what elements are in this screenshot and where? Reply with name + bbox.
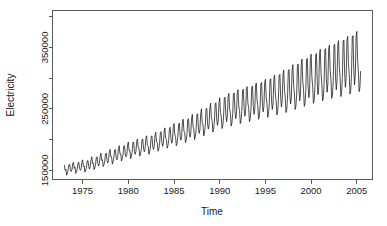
y-tick-label: 150000 xyxy=(39,154,50,186)
y-tick-label: 350000 xyxy=(39,32,50,64)
x-axis-tick-labels: 1975198019851990199520002005 xyxy=(72,185,367,196)
x-axis-title: Time xyxy=(201,206,223,217)
y-tick-label: 250000 xyxy=(39,93,50,125)
x-tick-label: 1990 xyxy=(209,185,230,196)
x-tick-label: 1975 xyxy=(72,185,93,196)
x-tick-label: 1985 xyxy=(163,185,184,196)
figure-container: 150000250000350000 197519801985199019952… xyxy=(0,0,387,226)
electricity-series-line xyxy=(64,31,360,175)
electricity-time-series-chart: 150000250000350000 197519801985199019952… xyxy=(0,0,387,226)
x-tick-label: 1980 xyxy=(118,185,139,196)
x-tick-label: 2000 xyxy=(301,185,322,196)
x-tick-label: 1995 xyxy=(255,185,276,196)
y-axis-title: Electricity xyxy=(5,74,16,117)
y-axis-tick-labels: 150000250000350000 xyxy=(39,32,50,187)
x-tick-label: 2005 xyxy=(346,185,367,196)
x-axis-ticks xyxy=(83,180,357,184)
